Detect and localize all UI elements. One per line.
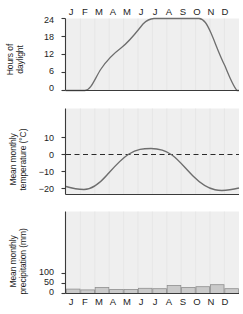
- month-label-bottom-jul: J: [148, 297, 162, 307]
- daylight-y-axis-title: Hours of daylight: [6, 20, 25, 100]
- temperature-ytick-10: 10: [28, 134, 54, 143]
- precipitation-bar-dec: [225, 289, 239, 294]
- daylight-y-axis: [62, 19, 66, 91]
- month-label-bottom-feb: F: [78, 297, 92, 307]
- precipitation-bar-aug: [167, 286, 181, 294]
- precipitation-y-axis-title-line2: precipitation (mm): [18, 212, 28, 312]
- precipitation-bar-oct: [196, 287, 210, 294]
- precipitation-bar-jun: [138, 288, 152, 293]
- precipitation-y-axis-title: Mean monthly precipitation (mm): [9, 212, 28, 312]
- precipitation-bar-mar: [95, 288, 109, 294]
- daylight-ytick-0: 0: [32, 84, 54, 93]
- month-label-bottom-oct: O: [190, 297, 204, 307]
- daylight-plot: [55, 14, 241, 96]
- precipitation-bar-jul: [153, 289, 167, 294]
- temperature-y-axis: [62, 109, 66, 195]
- temperature-plot: [55, 105, 241, 200]
- precipitation-bar-sep: [182, 288, 196, 294]
- precipitation-bar-jan: [66, 289, 80, 293]
- temperature-y-axis-title-line2: temperature (°C): [18, 112, 28, 208]
- precipitation-bar-nov: [210, 285, 224, 294]
- daylight-ytick-12: 12: [32, 50, 54, 59]
- temperature-ytick-m20: −20: [28, 185, 54, 194]
- precipitation-plot: [55, 208, 241, 298]
- daylight-ytick-24: 24: [32, 16, 54, 25]
- temperature-ytick-m10: −10: [28, 168, 54, 177]
- precipitation-bar-may: [124, 290, 138, 294]
- month-label-bottom-may: M: [120, 297, 134, 307]
- month-label-bottom-jan: J: [64, 297, 78, 307]
- month-label-bottom-dec: D: [218, 297, 232, 307]
- month-label-bottom-sep: S: [176, 297, 190, 307]
- daylight-ytick-18: 18: [32, 33, 54, 42]
- temperature-y-axis-title: Mean monthly temperature (°C): [9, 112, 28, 208]
- precipitation-ytick-50: 50: [28, 278, 54, 287]
- month-label-bottom-aug: A: [162, 297, 176, 307]
- daylight-ytick-6: 6: [32, 67, 54, 76]
- precipitation-ytick-0: 0: [28, 288, 54, 297]
- month-label-bottom-nov: N: [204, 297, 218, 307]
- month-label-bottom-mar: M: [92, 297, 106, 307]
- climate-diagram-figure: J F M A M J J A S O N D Hours of dayligh…: [0, 0, 243, 314]
- precipitation-bar-apr: [110, 290, 124, 294]
- temperature-ytick-0: 0: [28, 151, 54, 160]
- daylight-y-axis-title-line2: daylight: [15, 20, 25, 100]
- precipitation-ytick-100: 100: [28, 268, 54, 277]
- precipitation-y-axis: [62, 212, 66, 294]
- month-label-bottom-jun: J: [134, 297, 148, 307]
- month-label-bottom-apr: A: [106, 297, 120, 307]
